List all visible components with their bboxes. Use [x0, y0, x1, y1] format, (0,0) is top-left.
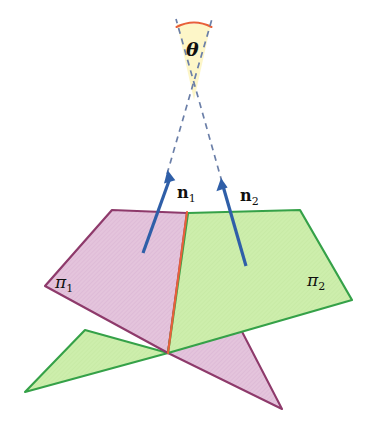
plane-1-label: π1 [55, 274, 73, 294]
normal-1-index: 1 [189, 192, 196, 205]
planes-angle-diagram [0, 0, 375, 430]
angle-wedge [177, 24, 211, 100]
figure-canvas: θ n1 n2 π1 π2 [0, 0, 375, 430]
normal-vector-1-label: n1 [177, 185, 196, 204]
normal-vector-2-label: n2 [240, 188, 259, 207]
plane-1-symbol: π [55, 272, 66, 292]
normal-2-index: 2 [252, 195, 259, 208]
normal-2-symbol: n [240, 186, 252, 205]
plane-2-index: 2 [318, 280, 325, 293]
plane-2-symbol: π [307, 270, 318, 290]
plane-2-label: π2 [307, 272, 325, 292]
normal-1-symbol: n [177, 183, 189, 202]
angle-theta-label: θ [186, 40, 199, 59]
plane-1-index: 1 [66, 282, 73, 295]
